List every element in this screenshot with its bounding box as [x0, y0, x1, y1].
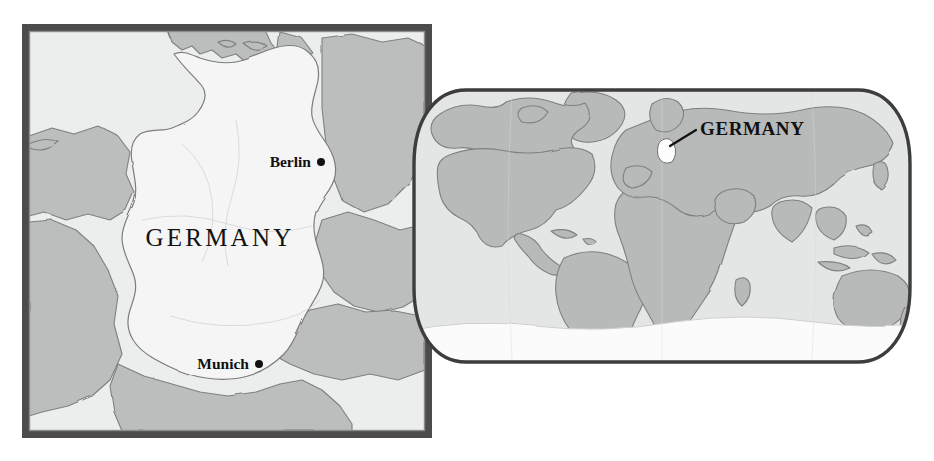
world-locator-map[interactable]: GERMANY	[404, 80, 920, 372]
world-content	[404, 80, 920, 372]
detail-map-body: Berlin Munich GERMANY	[29, 31, 425, 431]
city-label-berlin: Berlin	[270, 153, 312, 170]
germany-detail-map-canvas: Berlin Munich GERMANY	[22, 24, 432, 438]
country-label-germany: GERMANY	[146, 224, 295, 251]
city-dot-munich	[255, 360, 263, 368]
city-label-munich: Munich	[197, 355, 249, 372]
world-locator-canvas: GERMANY	[404, 80, 920, 372]
city-dot-berlin	[317, 158, 325, 166]
callout-label-germany: GERMANY	[700, 118, 804, 139]
germany-highlight-patch	[658, 139, 676, 163]
world-paper-texture	[404, 80, 920, 372]
map-figure: Berlin Munich GERMANY	[0, 0, 934, 461]
germany-detail-map[interactable]: Berlin Munich GERMANY	[22, 24, 432, 438]
